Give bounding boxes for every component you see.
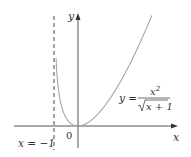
curve-equation-label: y = x2 x + 1 (118, 85, 173, 112)
origin-label: 0 (66, 130, 72, 141)
equation-lhs: y = (118, 92, 137, 104)
function-curve (56, 15, 152, 126)
x-axis-label: x (173, 131, 180, 144)
asymptote-label: x = −1 (18, 137, 55, 149)
function-graph: y x 0 x = −1 y = x2 x + 1 (0, 0, 191, 157)
equation-denominator: x + 1 (146, 101, 173, 112)
equation-numerator: x2 (150, 85, 161, 97)
y-axis-arrow-icon (76, 13, 81, 20)
y-axis-label: y (67, 10, 75, 23)
x-axis-arrow-icon (171, 124, 178, 129)
